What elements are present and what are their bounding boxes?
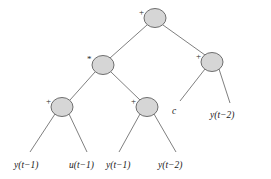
tree-edge: [219, 69, 230, 103]
tree-edge: [70, 72, 95, 100]
tree-node-n3[interactable]: [201, 53, 223, 72]
leaf-label-l3: y(t−1): [106, 160, 130, 170]
tree-node-n1[interactable]: [144, 9, 166, 28]
leaf-label-l1: y(t−1): [14, 160, 38, 170]
tree-edge: [110, 25, 147, 58]
leaf-label-l4: y(t−2): [158, 160, 182, 170]
operator-label-n1: +: [139, 8, 144, 17]
expression-tree-canvas: [0, 0, 271, 179]
operator-label-n3: +: [196, 52, 201, 61]
tree-edge: [154, 114, 176, 152]
tree-edge: [119, 114, 140, 152]
operator-label-n2: *: [87, 55, 92, 64]
leaf-label-l5: c: [172, 106, 176, 116]
edge-group: [30, 25, 230, 152]
leaf-label-l2: u(t−1): [69, 160, 94, 170]
tree-edge: [30, 114, 55, 152]
tree-node-n5[interactable]: [136, 98, 158, 117]
tree-node-n4[interactable]: [51, 98, 73, 117]
operator-label-n4: +: [46, 97, 51, 106]
tree-node-n2[interactable]: [92, 56, 114, 75]
tree-edge: [180, 69, 205, 101]
node-group: [51, 9, 223, 117]
leaf-label-l6: y(t−2): [210, 110, 234, 120]
operator-label-n5: +: [131, 97, 136, 106]
tree-edge: [69, 114, 87, 152]
